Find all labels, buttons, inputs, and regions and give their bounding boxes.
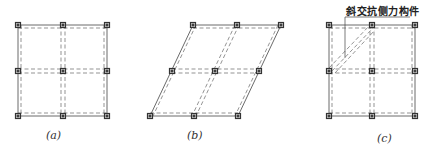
structural-plan-diagram xyxy=(0,0,428,156)
panel-b-caption: (b) xyxy=(187,129,203,142)
panel-a-grid xyxy=(16,23,110,119)
diagonal-member-annotation: 斜交抗侧力构件 xyxy=(346,3,420,18)
panel-c-grid xyxy=(327,17,418,119)
panel-a-caption: (a) xyxy=(46,129,61,142)
panel-b-grid xyxy=(148,23,284,119)
panel-c-caption: (c) xyxy=(377,132,392,145)
